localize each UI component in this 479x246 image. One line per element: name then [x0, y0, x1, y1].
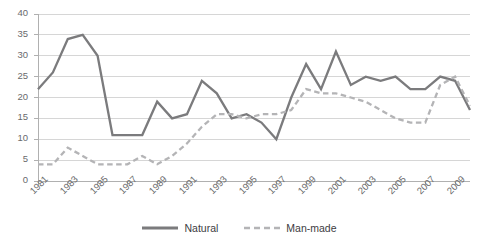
y-axis-tick-label: 35: [6, 29, 28, 39]
y-axis-tick-label: 15: [6, 112, 28, 122]
y-axis-tick-label: 40: [6, 8, 28, 18]
y-axis-tick-label: 0: [6, 175, 28, 185]
chart-plot-area: [0, 0, 479, 246]
series-line-man-made: [38, 77, 470, 165]
y-axis-tick-label: 25: [6, 71, 28, 81]
chart-legend: Natural Man-made: [0, 222, 479, 234]
y-axis-tick-label: 20: [6, 92, 28, 102]
legend-item-natural: Natural: [142, 222, 218, 234]
legend-line-manmade-icon: [244, 224, 280, 232]
line-chart: 0510152025303540 19811983198519871989199…: [0, 0, 479, 246]
series-line-natural: [38, 35, 470, 139]
y-axis-tick-label: 10: [6, 133, 28, 143]
legend-label-manmade: Man-made: [286, 222, 336, 234]
y-axis-tick-label: 5: [6, 154, 28, 164]
legend-label-natural: Natural: [184, 222, 218, 234]
legend-item-manmade: Man-made: [244, 222, 336, 234]
legend-line-natural-icon: [142, 224, 178, 232]
y-axis-tick-label: 30: [6, 50, 28, 60]
